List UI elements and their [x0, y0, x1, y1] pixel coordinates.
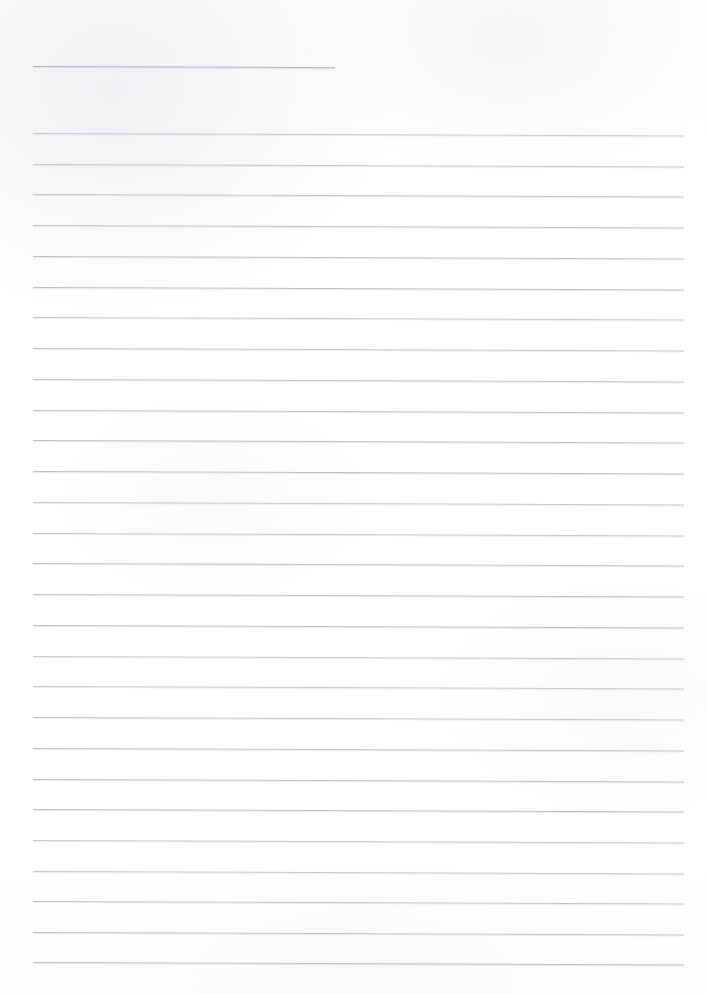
- ruled-line: [33, 348, 684, 351]
- ruled-line: [33, 533, 684, 536]
- ruled-line: [33, 871, 684, 874]
- ruled-line: [33, 225, 684, 228]
- ruled-line: [33, 809, 684, 812]
- ruled-line: [33, 656, 684, 659]
- ruled-line: [33, 379, 684, 382]
- paper-texture: [0, 0, 707, 994]
- header-rule: [33, 66, 335, 68]
- ruled-line: [33, 256, 684, 259]
- ruled-line: [33, 779, 684, 782]
- ruled-line: [33, 317, 684, 320]
- ruled-line: [33, 686, 684, 689]
- ruled-line: [33, 563, 684, 566]
- ruled-line: [33, 717, 684, 720]
- ruled-line: [33, 594, 684, 597]
- ruled-line: [33, 932, 684, 935]
- ruled-line: [33, 133, 684, 136]
- ruled-line: [33, 194, 684, 197]
- ruled-line: [33, 410, 684, 413]
- ruled-line: [33, 748, 684, 751]
- ruled-line: [33, 502, 684, 505]
- ruled-line: [33, 962, 684, 965]
- ruled-line: [33, 287, 684, 290]
- ruled-line: [33, 440, 684, 443]
- ruled-line: [33, 625, 684, 628]
- ruled-line: [33, 471, 684, 474]
- ruled-line: [33, 901, 684, 904]
- ruled-line: [33, 840, 684, 843]
- ruled-line: [33, 164, 684, 167]
- scanned-page: [0, 0, 707, 994]
